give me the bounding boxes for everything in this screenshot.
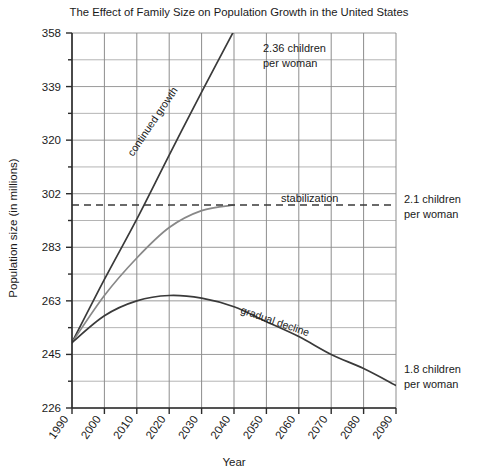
population-growth-chart: The Effect of Family Size on Population … bbox=[0, 0, 479, 475]
y-tick-label: 302 bbox=[42, 188, 61, 200]
annotation-236-line2: per woman bbox=[263, 57, 317, 69]
x-tick-label: 2080 bbox=[338, 413, 363, 441]
chart-title: The Effect of Family Size on Population … bbox=[70, 6, 409, 18]
y-axis-title: Population size (in millions) bbox=[7, 158, 19, 298]
y-tick-label: 339 bbox=[42, 81, 61, 93]
x-axis-tick-labels: 1990200020102020203020402050206020702080… bbox=[46, 413, 395, 441]
y-axis-tick-labels: 226245263283302320339358 bbox=[42, 27, 61, 414]
annotation-236-line1: 2.36 children bbox=[263, 42, 326, 54]
y-tick-label: 320 bbox=[42, 134, 61, 146]
x-tick-label: 2090 bbox=[370, 413, 395, 441]
x-tick-label: 2010 bbox=[111, 413, 136, 441]
x-tick-label: 2050 bbox=[241, 413, 266, 441]
series-line-continued-growth bbox=[72, 25, 237, 343]
axes bbox=[66, 33, 396, 414]
annotation-21-line1: 2.1 children bbox=[404, 193, 461, 205]
x-tick-label: 1990 bbox=[46, 413, 71, 441]
curve-label-gradual-decline: gradual decline bbox=[239, 304, 311, 339]
x-tick-label: 2020 bbox=[143, 413, 168, 441]
chart-canvas: The Effect of Family Size on Population … bbox=[0, 0, 479, 475]
y-tick-label: 283 bbox=[42, 241, 61, 253]
x-tick-label: 2040 bbox=[208, 413, 233, 441]
x-tick-label: 2000 bbox=[79, 413, 104, 441]
y-tick-label: 245 bbox=[42, 348, 61, 360]
curve-label-stabilization: stabilization bbox=[281, 192, 338, 204]
annotation-21-line2: per woman bbox=[404, 208, 458, 220]
y-tick-label: 226 bbox=[42, 402, 61, 414]
chart-annotations: 2.36 children per woman 2.1 children per… bbox=[125, 42, 461, 390]
annotation-18-line2: per woman bbox=[404, 378, 458, 390]
curve-label-continued-growth: continued growth bbox=[125, 84, 180, 158]
y-tick-label: 263 bbox=[42, 295, 61, 307]
x-tick-label: 2060 bbox=[273, 413, 298, 441]
x-tick-label: 2030 bbox=[176, 413, 201, 441]
annotation-18-line1: 1.8 children bbox=[404, 363, 461, 375]
y-tick-label: 358 bbox=[42, 27, 61, 39]
x-tick-label: 2070 bbox=[305, 413, 330, 441]
x-axis-title: Year bbox=[222, 456, 245, 468]
